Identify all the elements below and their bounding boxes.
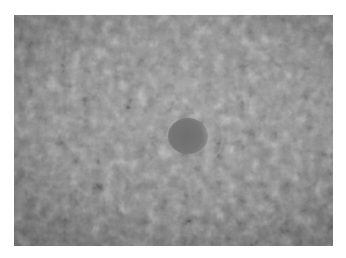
photograph: Grayscale close-up photograph of a textu… [14,15,333,246]
vignette [14,15,333,246]
